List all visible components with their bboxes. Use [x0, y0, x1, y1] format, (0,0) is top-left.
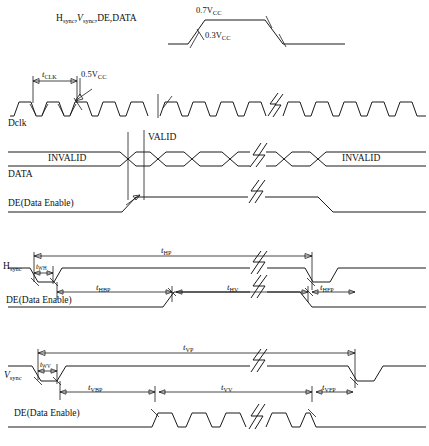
- tvv-label: tVV: [221, 383, 232, 392]
- de-hsync-label: DE(Data Enable): [6, 296, 72, 306]
- timing-diagram-page: Hsync,Vsync,DE,DATA 0.7VCC 0.3VCC tCLK 0…: [0, 0, 429, 446]
- thbp-label: tHBP: [96, 283, 110, 292]
- valid-label: VALID: [148, 133, 176, 143]
- vsync-signal-label: Vsync: [4, 371, 22, 381]
- clock-waveform-group: [10, 76, 426, 118]
- v-high-threshold-label: 0.7VCC: [196, 6, 222, 15]
- de-vsync-label: DE(Data Enable): [14, 409, 80, 419]
- tvbp-label: tVBP: [88, 383, 102, 392]
- data-bus-group: [8, 130, 426, 200]
- level-waveform-group: [168, 16, 345, 48]
- dclk-signal-label: Dclk: [8, 119, 26, 129]
- thp-label: tHP: [161, 246, 171, 255]
- invalid-left-label: INVALID: [48, 154, 86, 164]
- clock-threshold-label: 0.5VCC: [81, 70, 107, 79]
- de-upper-label: DE(Data Enable): [8, 199, 74, 209]
- tvfp-label: tVFP: [322, 383, 336, 392]
- data-signal-label: DATA: [8, 170, 33, 180]
- hsync-signal-label: Hsync: [3, 262, 22, 272]
- tclk-label: tCLK: [42, 70, 57, 79]
- twh-label: tWH: [36, 263, 47, 271]
- invalid-right-label: INVALID: [342, 154, 380, 164]
- tvp-label: tVP: [183, 343, 193, 352]
- v-low-threshold-label: 0.3VCC: [205, 31, 231, 40]
- thfp-label: tHFP: [320, 283, 334, 292]
- thv-label: tHV: [227, 283, 238, 292]
- diagram-canvas: [0, 0, 429, 446]
- level-signal-label: Hsync,Vsync,DE,DATA: [56, 14, 137, 24]
- twv-label: tWV: [40, 361, 51, 369]
